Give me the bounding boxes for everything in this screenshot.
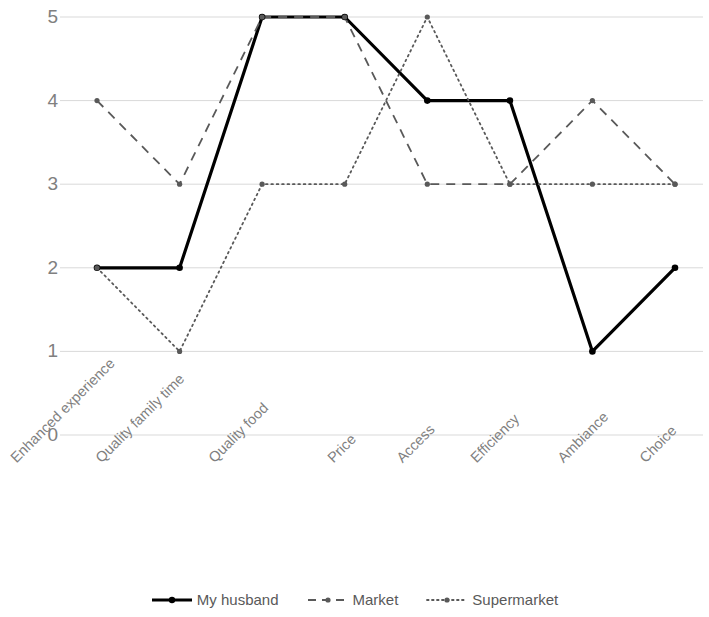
data-point [507, 182, 512, 187]
data-point [672, 265, 679, 272]
data-point [425, 182, 430, 187]
legend-label-supermarket: Supermarket [472, 592, 558, 607]
legend-label-market: Market [353, 592, 399, 607]
legend-entry-my-husband[interactable]: My husband [151, 592, 279, 607]
legend-label-my-husband: My husband [197, 592, 279, 607]
data-point [342, 182, 347, 187]
legend: My husband Market Supermarket [0, 592, 709, 607]
data-point [176, 265, 183, 272]
data-point [424, 97, 431, 104]
data-point [425, 14, 430, 19]
legend-entry-market[interactable]: Market [307, 592, 399, 607]
data-point [342, 14, 347, 19]
data-point [260, 182, 265, 187]
data-point [590, 98, 595, 103]
gridlines [60, 17, 703, 435]
data-point [177, 349, 182, 354]
data-point [672, 182, 677, 187]
data-point [590, 182, 595, 187]
plot-area [0, 0, 709, 617]
data-point [177, 182, 182, 187]
data-point [94, 265, 99, 270]
data-point [507, 97, 514, 104]
data-point [94, 98, 99, 103]
data-point [589, 348, 596, 355]
legend-swatch-supermarket [426, 593, 468, 607]
legend-swatch-market [307, 593, 349, 607]
data-point [260, 14, 265, 19]
line-chart: 5 4 3 2 1 0 Enhanced experience Quality … [0, 0, 709, 617]
legend-swatch-my-husband [151, 593, 193, 607]
legend-entry-supermarket[interactable]: Supermarket [426, 592, 558, 607]
